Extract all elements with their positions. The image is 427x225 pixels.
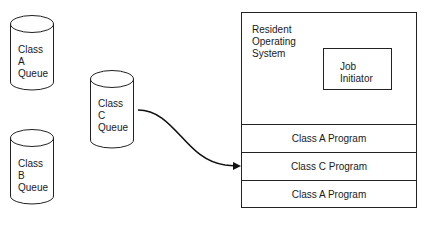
partition-class-c: Class C Program: [242, 152, 416, 180]
job-initiator-box: JobInitiator: [323, 48, 392, 90]
partition-class-a-2: Class A Program: [242, 180, 416, 208]
partition-class-a-1: Class A Program: [242, 124, 416, 152]
resident-os-label: ResidentOperatingSystem: [252, 24, 296, 60]
job-initiator-label: JobInitiator: [340, 61, 373, 85]
main-memory-box: ResidentOperatingSystem JobInitiator Cla…: [241, 12, 417, 208]
